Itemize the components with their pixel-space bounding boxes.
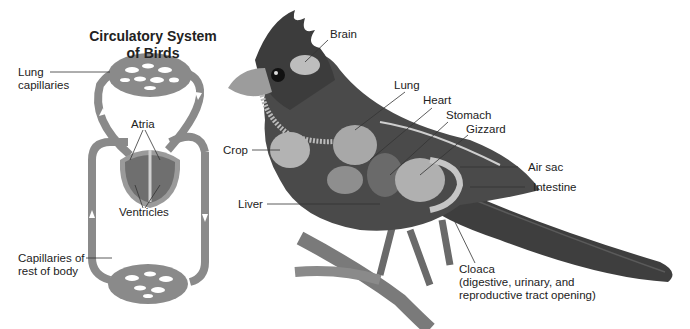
label-gizzard: Gizzard	[466, 123, 506, 136]
bird-illustration	[228, 10, 673, 329]
label-crop: Crop	[223, 144, 248, 157]
title-line-2: of Birds	[88, 45, 218, 62]
label-body-capillaries: Capillaries of rest of body	[18, 252, 84, 278]
label-brain: Brain	[330, 28, 357, 41]
label-ventricles: Ventricles	[119, 206, 169, 219]
label-stomach: Stomach	[446, 109, 491, 122]
label-lung-capillaries: Lung capillaries	[18, 66, 69, 92]
diagram-title: Circulatory System of Birds	[88, 28, 218, 62]
label-lung: Lung	[394, 79, 420, 92]
label-heart: Heart	[423, 94, 451, 107]
label-atria: Atria	[131, 118, 155, 131]
label-liver: Liver	[238, 198, 263, 211]
label-air-sac: Air sac	[528, 161, 563, 174]
title-line-1: Circulatory System	[88, 28, 218, 45]
label-intestine: Intestine	[533, 181, 576, 194]
label-cloaca: Cloaca (digestive, urinary, and reproduc…	[459, 263, 596, 302]
